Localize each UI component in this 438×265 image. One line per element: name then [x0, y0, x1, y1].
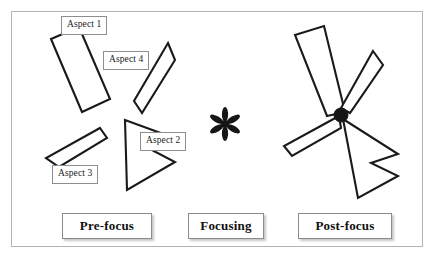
stage-label-pre-focus: Pre-focus — [62, 213, 152, 239]
focus-stage-diagram: Aspect 1 Aspect 4 Aspect 2 Aspect 3 Pre-… — [0, 0, 438, 265]
aspect-label-aspect-3: Aspect 3 — [52, 165, 98, 184]
aspect-label-aspect-1: Aspect 1 — [61, 16, 107, 35]
stage-label-focusing: Focusing — [188, 213, 264, 239]
stage-label-post-focus: Post-focus — [298, 213, 392, 239]
aspect-label-aspect-2: Aspect 2 — [140, 132, 186, 151]
asterisk-icon — [208, 106, 242, 142]
aspect-label-aspect-4: Aspect 4 — [103, 51, 149, 70]
